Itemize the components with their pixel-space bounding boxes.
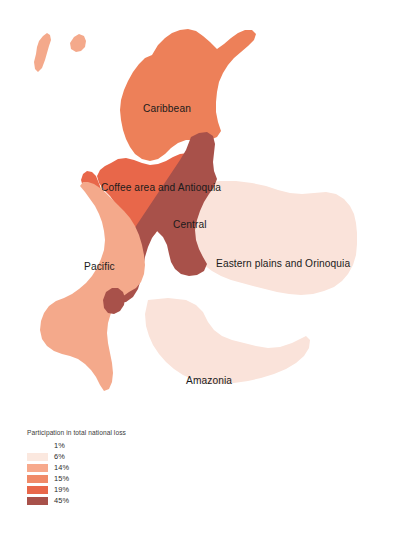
legend-title: Participation in total national loss	[27, 429, 207, 436]
legend-swatch	[27, 464, 48, 472]
legend-value: 45%	[54, 497, 69, 504]
region-amazonia	[145, 298, 310, 384]
legend-value: 19%	[54, 486, 69, 493]
legend-item: 6%	[27, 451, 207, 462]
legend-swatch	[27, 442, 48, 450]
legend-item: 45%	[27, 495, 207, 506]
choropleth-map-figure: Caribbean Coffee area and Antioquia Cent…	[0, 0, 399, 543]
region-providencia-island	[70, 34, 86, 52]
legend-value: 1%	[54, 442, 65, 449]
legend-item: 19%	[27, 484, 207, 495]
legend-swatch	[27, 497, 48, 505]
legend-swatch	[27, 486, 48, 494]
legend-value: 14%	[54, 464, 69, 471]
legend-swatch	[27, 475, 48, 483]
legend-item: 1%	[27, 440, 207, 451]
legend-item: 15%	[27, 473, 207, 484]
map-legend: Participation in total national loss 1% …	[27, 429, 207, 506]
region-eastern-plains-and-orinoquia	[190, 181, 357, 295]
region-caribbean	[120, 29, 256, 161]
legend-swatch	[27, 453, 48, 461]
region-central-southern-tip	[103, 288, 125, 314]
legend-item: 14%	[27, 462, 207, 473]
legend-value: 15%	[54, 475, 69, 482]
region-san-andres-island	[34, 33, 51, 72]
legend-value: 6%	[54, 453, 65, 460]
